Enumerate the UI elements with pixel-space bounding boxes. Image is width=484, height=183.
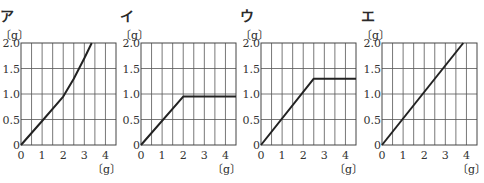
x-tick-label: 1 <box>400 149 407 162</box>
y-tick-label: 1.5 <box>3 63 21 76</box>
line-chart: 00.51.01.52.001234 <box>120 0 240 183</box>
chart-panel-a: ア 〔g〕 00.51.01.52.001234 〔g〕 <box>0 0 120 183</box>
x-tick-label: 3 <box>442 149 449 162</box>
line-chart: 00.51.01.52.001234 <box>0 0 120 183</box>
y-tick-label: 2.0 <box>243 37 261 50</box>
y-tick-label: 0.5 <box>123 114 141 127</box>
y-tick-label: 0.5 <box>243 114 261 127</box>
x-tick-label: 3 <box>321 149 328 162</box>
y-tick-label: 1.0 <box>123 88 141 101</box>
y-tick-label: 1.5 <box>243 63 261 76</box>
line-chart: 00.51.01.52.001234 <box>361 0 484 183</box>
y-tick-label: 1.0 <box>243 88 261 101</box>
x-tick-label: 0 <box>379 149 386 162</box>
x-tick-label: 2 <box>60 149 67 162</box>
x-axis-unit: 〔g〕 <box>92 160 121 176</box>
data-line <box>261 79 356 145</box>
line-chart: 00.51.01.52.001234 <box>240 0 360 183</box>
x-axis-unit: 〔g〕 <box>334 160 363 176</box>
x-tick-label: 3 <box>201 149 208 162</box>
x-tick-label: 1 <box>279 149 286 162</box>
chart-panel-e: エ 〔g〕 00.51.01.52.001234 〔g〕 <box>361 0 481 183</box>
x-tick-label: 2 <box>421 149 428 162</box>
y-tick-label: 2.0 <box>364 37 382 50</box>
x-axis-unit: 〔g〕 <box>457 160 484 176</box>
y-tick-label: 1.5 <box>364 63 382 76</box>
data-line <box>141 97 236 145</box>
chart-panel-u: ウ 〔g〕 00.51.01.52.001234 〔g〕 <box>240 0 360 183</box>
x-tick-label: 0 <box>258 149 265 162</box>
x-tick-label: 0 <box>138 149 145 162</box>
y-tick-label: 2.0 <box>123 37 141 50</box>
chart-panel-i: イ 〔g〕 00.51.01.52.001234 〔g〕 <box>120 0 240 183</box>
y-tick-label: 1.0 <box>3 88 21 101</box>
y-tick-label: 0.5 <box>364 114 382 127</box>
x-tick-label: 1 <box>39 149 46 162</box>
x-tick-label: 2 <box>300 149 307 162</box>
y-tick-label: 1.5 <box>123 63 141 76</box>
y-tick-label: 2.0 <box>3 37 21 50</box>
x-tick-label: 0 <box>18 149 25 162</box>
x-tick-label: 2 <box>180 149 187 162</box>
y-tick-label: 1.0 <box>364 88 382 101</box>
x-axis-unit: 〔g〕 <box>212 160 241 176</box>
x-tick-label: 1 <box>159 149 166 162</box>
x-tick-label: 3 <box>81 149 88 162</box>
y-tick-label: 0.5 <box>3 114 21 127</box>
